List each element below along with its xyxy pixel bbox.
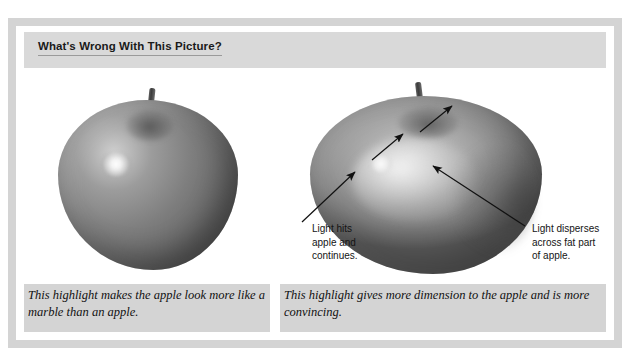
apple-image-left [24, 74, 270, 280]
apple-image-right: Light hits apple and continues. Light di… [280, 74, 606, 280]
specular-highlight-tight [101, 151, 131, 177]
caption-right: This highlight gives more dimension to t… [280, 284, 606, 332]
stem-well-shadow [126, 110, 173, 141]
title-band: What's Wrong With This Picture? [24, 32, 606, 68]
annotation-light-disperses: Light disperses across fat part of apple… [532, 222, 599, 263]
figure-frame: What's Wrong With This Picture? This hig… [8, 18, 622, 348]
annotation-light-hits: Light hits apple and continues. [312, 222, 358, 263]
apple-illustration-left [58, 86, 238, 270]
figure-inner-frame: What's Wrong With This Picture? This hig… [16, 26, 614, 340]
caption-left: This highlight makes the apple look more… [24, 284, 270, 332]
caption-right-text: This highlight gives more dimension to t… [284, 287, 602, 320]
stem-well-shadow [398, 107, 458, 139]
caption-left-text: This highlight makes the apple look more… [28, 287, 266, 320]
apple-body [58, 100, 238, 270]
panel-left: This highlight makes the apple look more… [24, 74, 270, 332]
page-title: What's Wrong With This Picture? [38, 40, 222, 56]
panel-right: Light hits apple and continues. Light di… [280, 74, 606, 332]
specular-highlight-spot [370, 155, 392, 173]
panels-row: This highlight makes the apple look more… [24, 74, 606, 332]
apple-shade-right [454, 142, 533, 252]
